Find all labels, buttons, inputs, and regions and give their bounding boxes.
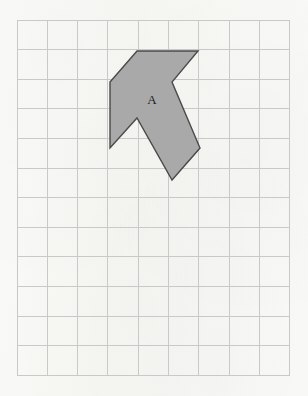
shape-polygon-a (110, 51, 200, 180)
shape-layer: A (0, 0, 308, 396)
shape-group: A (110, 51, 200, 180)
shape-label-a: A (147, 92, 157, 107)
shape-svg: A (0, 0, 308, 396)
worksheet-page: A (0, 0, 308, 396)
